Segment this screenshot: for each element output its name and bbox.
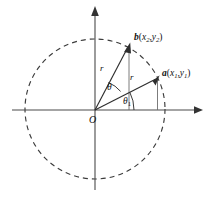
x-axis-arrowhead-icon (194, 106, 203, 114)
label-radius-a: r (130, 72, 134, 82)
label-angle-theta1: θ1 (123, 96, 131, 107)
label-angle-theta: θ (107, 82, 112, 92)
figure-container: b(x2,y2) a(x1,y1) r r θ θ1 O (0, 0, 207, 199)
label-point-b: b(x2,y2) (134, 32, 163, 43)
y-axis-arrowhead-icon (91, 6, 99, 16)
label-radius-b: r (100, 63, 104, 73)
polar-diagram-svg: b(x2,y2) a(x1,y1) r r θ θ1 O (0, 0, 207, 199)
label-point-a: a(x1,y1) (162, 68, 191, 79)
vector-b-arrowhead-icon (124, 43, 131, 54)
label-origin: O (89, 114, 96, 125)
